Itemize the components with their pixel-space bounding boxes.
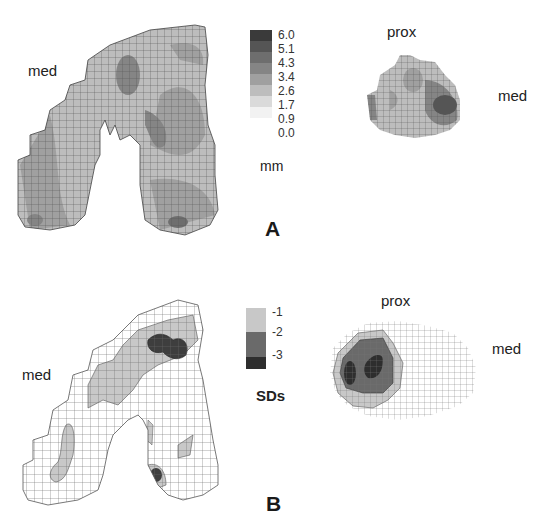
legend-tick: 2.6: [278, 84, 295, 98]
colorbar-swatch: [250, 52, 272, 63]
legend-tick: 0.0: [278, 126, 295, 140]
legend-tick: 5.1: [278, 42, 295, 56]
panel-letter-a: A: [265, 217, 280, 241]
patella-med-label-a: med: [498, 87, 527, 104]
legend-tick: -1: [272, 305, 283, 319]
colorbar-swatch: [250, 63, 272, 74]
panel-letter-b: B: [266, 492, 281, 516]
colorbar-swatch: [246, 308, 266, 332]
legend-tick: -2: [272, 325, 283, 339]
legend-tick: 3.4: [278, 70, 295, 84]
colorbar-swatch: [250, 30, 272, 41]
legend-tick: 0.9: [278, 112, 295, 126]
legend-tick: 4.3: [278, 56, 295, 70]
colorbar-swatch: [250, 85, 272, 96]
colorbar-swatch: [250, 74, 272, 85]
legend-tick: 1.7: [278, 98, 295, 112]
femur-thickness-map-a: [10, 15, 230, 245]
legend-tick: 6.0: [278, 28, 295, 42]
colorbar-swatch: [246, 332, 266, 357]
femur-deviation-map-b: [18, 290, 238, 520]
patella-med-label-b: med: [492, 340, 521, 357]
legend-unit-mm: mm: [260, 158, 283, 174]
legend-tick: -3: [272, 348, 283, 362]
legend-thickness: 6.0 5.1 4.3 3.4 2.6 1.7 0.9 0.0 mm: [250, 30, 320, 200]
legend-unit-sds: SDs: [256, 387, 285, 404]
colorbar-swatch: [250, 107, 272, 118]
patella-prox-label-b: prox: [381, 292, 410, 309]
patella-prox-label-a: prox: [387, 23, 416, 40]
colorbar-swatch: [250, 41, 272, 52]
colorbar-thickness: [250, 30, 272, 118]
legend-sds: -1 -2 -3 SDs: [246, 308, 316, 408]
patella-thickness-map-a: [365, 50, 475, 140]
colorbar-swatch: [246, 357, 266, 369]
patella-deviation-map-b: [328, 318, 478, 423]
colorbar-sds: [246, 308, 266, 369]
colorbar-swatch: [250, 96, 272, 107]
femur-med-label-b: med: [22, 366, 51, 383]
femur-med-label-a: med: [28, 62, 57, 79]
